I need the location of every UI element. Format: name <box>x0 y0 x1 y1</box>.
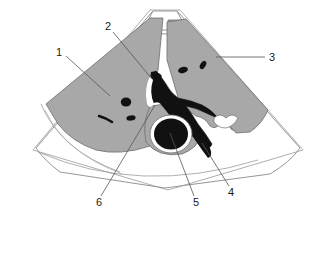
label-3: 3 <box>269 51 275 63</box>
ultrasound-figure: 1 2 3 4 5 6 <box>0 0 330 266</box>
label-1: 1 <box>56 46 62 58</box>
label-6: 6 <box>96 196 102 208</box>
label-2: 2 <box>105 20 111 32</box>
label-5: 5 <box>193 196 199 208</box>
vessel-left-lobe-round <box>121 97 131 106</box>
gallbladder-lumen <box>154 119 188 150</box>
label-4: 4 <box>228 186 234 198</box>
figure-canvas: 1 2 3 4 5 6 <box>0 0 330 266</box>
